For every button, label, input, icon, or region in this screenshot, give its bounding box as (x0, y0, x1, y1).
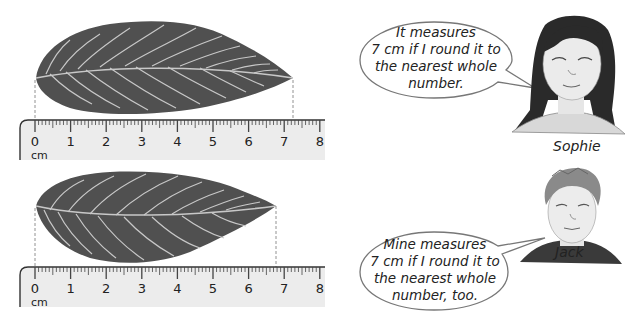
character-name-jack: Jack (555, 244, 584, 260)
jack-portrait-icon (0, 0, 631, 332)
